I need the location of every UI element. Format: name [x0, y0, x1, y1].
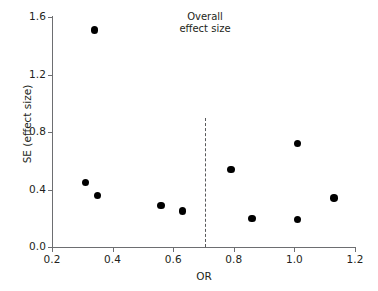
- scatter-data-point: [179, 207, 187, 215]
- x-axis-tick: [173, 248, 174, 252]
- scatter-data-point: [248, 215, 256, 223]
- y-axis-tick: [48, 132, 52, 133]
- scatter-data-point: [294, 140, 302, 148]
- scatter-data-point: [227, 166, 235, 174]
- y-axis-tick: [48, 190, 52, 191]
- x-axis-tick: [234, 248, 235, 252]
- x-axis-tick-label: 0.6: [153, 253, 193, 265]
- x-axis-tick-label: 0.8: [214, 253, 254, 265]
- scatter-data-point: [94, 192, 102, 200]
- x-axis-tick: [52, 248, 53, 252]
- y-axis-tick-label: 0.4: [6, 183, 46, 195]
- overall-effect-size-label: Overalleffect size: [145, 11, 265, 35]
- x-axis-tick: [113, 248, 114, 252]
- x-axis-tick: [355, 248, 356, 252]
- funnel-plot-figure: SE (effect size) OR 0.00.40.81.21.60.20.…: [0, 0, 378, 291]
- x-axis-tick-label: 1.0: [274, 253, 314, 265]
- y-axis-line: [52, 16, 53, 248]
- scatter-data-point: [330, 194, 338, 202]
- overall-effect-size-label-line2: effect size: [145, 23, 265, 35]
- y-axis-tick-label: 0.0: [6, 240, 46, 252]
- scatter-data-point: [157, 202, 165, 210]
- y-axis-tick-label: 1.2: [6, 68, 46, 80]
- y-axis-tick-label: 1.6: [6, 10, 46, 22]
- x-axis-line: [52, 247, 356, 248]
- scatter-data-point: [91, 26, 99, 34]
- x-axis-tick-label: 0.2: [32, 253, 72, 265]
- y-axis-tick: [48, 75, 52, 76]
- x-axis-tick-label: 1.2: [335, 253, 375, 265]
- y-axis-tick: [48, 17, 52, 18]
- scatter-data-point: [82, 179, 90, 187]
- x-axis-tick: [294, 248, 295, 252]
- scatter-data-point: [294, 216, 302, 224]
- x-axis-title: OR: [52, 270, 356, 282]
- overall-effect-size-line: [205, 118, 206, 247]
- x-axis-tick-label: 0.4: [93, 253, 133, 265]
- y-axis-tick-label: 0.8: [6, 125, 46, 137]
- overall-effect-size-label-line1: Overall: [145, 11, 265, 23]
